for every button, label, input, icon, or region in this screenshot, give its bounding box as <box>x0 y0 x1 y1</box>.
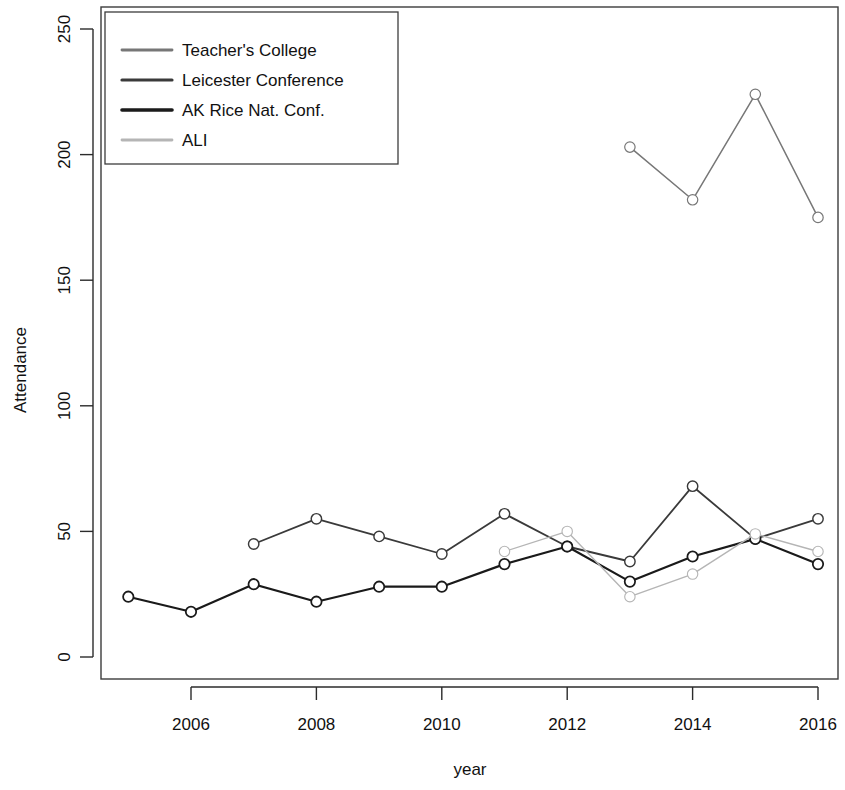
data-point <box>813 212 823 222</box>
data-point <box>813 546 823 556</box>
data-point <box>687 481 697 491</box>
x-tick-label: 2006 <box>172 715 210 734</box>
data-point <box>625 142 635 152</box>
data-point <box>750 89 760 99</box>
y-tick-label: 200 <box>55 140 74 168</box>
data-point <box>562 541 572 551</box>
data-point <box>499 559 509 569</box>
series-line <box>254 486 818 561</box>
chart-container: 050100150200250 200620082010201220142016… <box>0 0 845 790</box>
y-tick-label: 0 <box>55 652 74 661</box>
data-point <box>186 607 196 617</box>
data-point <box>687 195 697 205</box>
y-tick-label: 250 <box>55 15 74 43</box>
x-tick-label: 2014 <box>674 715 712 734</box>
attendance-line-chart: 050100150200250 200620082010201220142016… <box>0 0 845 790</box>
series-line <box>630 94 818 217</box>
data-point <box>499 509 509 519</box>
data-point <box>374 531 384 541</box>
x-tick-label: 2008 <box>297 715 335 734</box>
data-point <box>750 529 760 539</box>
legend-label: AK Rice Nat. Conf. <box>182 101 325 120</box>
series-layer <box>123 89 823 617</box>
data-point <box>311 514 321 524</box>
data-point <box>625 556 635 566</box>
y-axis-title: Attendance <box>11 327 30 413</box>
series-line <box>505 531 819 596</box>
data-point <box>625 592 635 602</box>
x-tick-label: 2016 <box>799 715 837 734</box>
legend-label: ALI <box>182 131 208 150</box>
series-3 <box>499 526 823 602</box>
y-axis: 050100150200250 <box>55 15 93 662</box>
x-tick-label: 2012 <box>548 715 586 734</box>
series-0 <box>625 89 824 222</box>
data-point <box>123 592 133 602</box>
x-axis-title: year <box>453 760 486 779</box>
series-1 <box>249 481 824 567</box>
data-point <box>687 551 697 561</box>
legend-label: Leicester Conference <box>182 71 344 90</box>
data-point <box>813 514 823 524</box>
series-line <box>128 539 818 612</box>
x-tick-label: 2010 <box>423 715 461 734</box>
data-point <box>437 549 447 559</box>
data-point <box>813 559 823 569</box>
y-tick-label: 50 <box>55 522 74 541</box>
data-point <box>687 569 697 579</box>
data-point <box>374 582 384 592</box>
data-point <box>499 546 509 556</box>
data-point <box>311 597 321 607</box>
chart-legend: Teacher's CollegeLeicester ConferenceAK … <box>105 12 398 164</box>
data-point <box>562 526 572 536</box>
data-point <box>249 579 259 589</box>
data-point <box>249 539 259 549</box>
legend-label: Teacher's College <box>182 41 317 60</box>
x-axis: 200620082010201220142016 <box>172 687 837 734</box>
series-2 <box>123 534 823 617</box>
y-tick-label: 100 <box>55 392 74 420</box>
data-point <box>625 576 635 586</box>
data-point <box>437 582 447 592</box>
y-tick-label: 150 <box>55 266 74 294</box>
